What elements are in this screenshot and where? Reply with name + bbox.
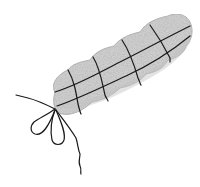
trailing-string-left xyxy=(16,95,55,109)
tied-roast-drawing xyxy=(0,0,200,187)
bow-loop-right xyxy=(51,110,64,145)
